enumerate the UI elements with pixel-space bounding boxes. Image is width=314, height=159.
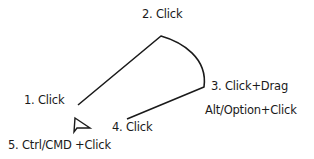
step-2-label: 2. Click	[142, 7, 182, 21]
step-5-label: 5. Ctrl/CMD +Click	[8, 138, 111, 152]
step-4-label: 4. Click	[112, 120, 152, 134]
step-3-alt-label: Alt/Option+Click	[205, 103, 297, 117]
step-1-label: 1. Click	[24, 93, 64, 107]
bezier-path	[78, 36, 204, 119]
pen-cursor-arrow-icon	[74, 118, 90, 132]
step-3-label: 3. Click+Drag	[211, 79, 288, 93]
